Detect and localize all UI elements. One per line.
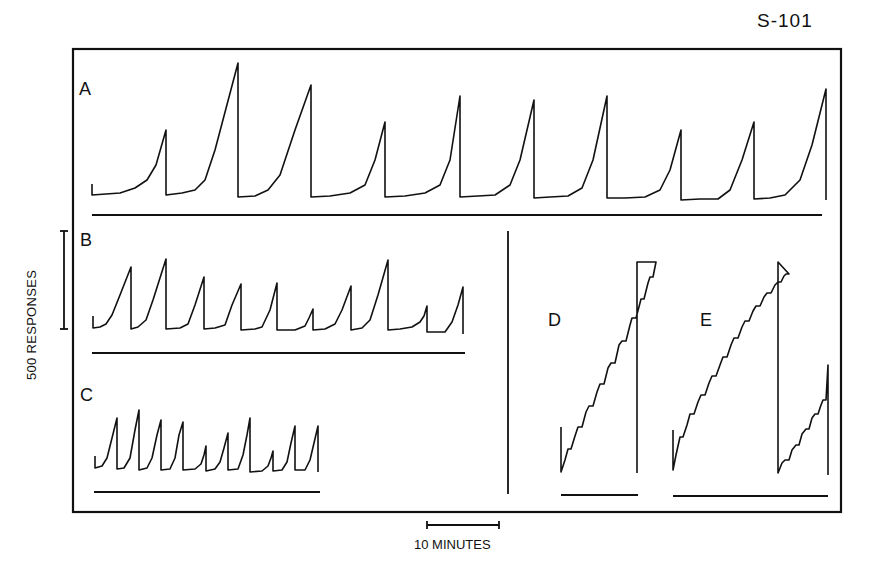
panel-c-label: C [80, 386, 93, 404]
panel-b-trace [92, 259, 465, 353]
y-scale-bar [60, 231, 68, 329]
panel-d-trace [561, 262, 656, 473]
panel-d-label: D [548, 311, 561, 329]
panel-b-label: B [80, 231, 92, 249]
panel-c-trace [94, 410, 320, 492]
panel-a-label: A [79, 80, 91, 98]
cumulative-record-figure [0, 0, 872, 567]
panel-a-trace [92, 63, 826, 215]
panel-e-label: E [700, 311, 712, 329]
x-scale-label: 10 MINUTES [414, 537, 491, 552]
y-scale-label: 500 RESPONSES [24, 270, 39, 380]
figure-id-label: S-101 [757, 10, 813, 32]
x-scale-bar [427, 521, 499, 529]
panel-e-trace [673, 262, 828, 475]
